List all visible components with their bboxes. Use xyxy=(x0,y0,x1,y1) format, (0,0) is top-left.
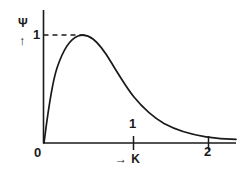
x-tick-label-1: 1 xyxy=(129,117,136,130)
x-axis-label: → K xyxy=(115,153,141,165)
curve-figure: Ψ ↑ 1 0 1 2 → K xyxy=(0,0,241,179)
y-axis-label: Ψ xyxy=(18,17,28,29)
psi-curve xyxy=(44,35,236,143)
y-tick-label-1: 1 xyxy=(33,28,40,41)
x-tick-label-2: 2 xyxy=(204,145,211,158)
origin-label: 0 xyxy=(34,146,41,159)
y-axis-arrow-icon: ↑ xyxy=(19,34,26,47)
